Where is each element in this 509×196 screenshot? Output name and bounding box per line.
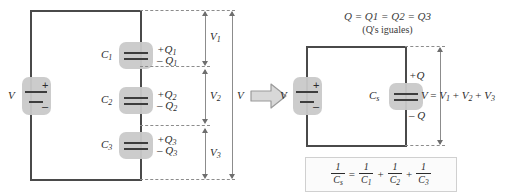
capacitor-cs-bottom-plate [394,99,418,101]
formula-lhs-fraction: 1 Cs [331,162,345,187]
capacitor-c2-top-plate [124,97,148,99]
formula-plus-sign-1: + [377,169,383,180]
dimension-v3-label: V3 [210,147,221,160]
capacitor-c2-subscript: 2 [108,98,112,107]
right-dimension-v-arrow-top [437,47,443,52]
series-capacitance-formula-box: 1 Cs = 1 C1 + 1 C2 + 1 C3 [305,157,457,192]
capacitor-cs-negative-charge: – Q [409,110,425,122]
equal-charges-caption: (Q's iguales) [305,24,470,37]
dimension-v1-arrow-bottom [202,61,208,66]
left-source-negative-plate [29,101,43,103]
right-source-minus-sign: – [313,101,319,112]
left-source-positive-plate [25,91,47,93]
right-source-label: V [280,90,287,102]
left-source-label: V [8,90,15,102]
formula-term1-fraction: 1 C1 [359,162,373,187]
capacitor-c3-top-plate [124,142,148,144]
dimension-v3-line [205,129,206,177]
dimension-v1-line [205,12,206,64]
dimension-v-total-arrow-top [229,11,235,16]
dimension-v2-line [205,70,206,122]
capacitor-cs-highlight [389,83,423,110]
formula-term3-fraction: 1 C3 [416,162,430,187]
formula-term2-fraction: 1 C2 [388,162,402,187]
capacitor-c3-subscript: 3 [108,143,112,152]
right-dimension-v-arrow-bottom [437,140,443,145]
capacitor-c1-label: C1 [101,49,112,62]
left-circuit-top-wire [30,10,142,12]
leader-line-top [140,10,235,11]
leader-line-c2-c3 [140,125,210,126]
leader-line-c1-c2 [140,66,210,67]
dimension-v2-arrow-top [202,69,208,74]
right-source-plus-sign: + [313,80,319,91]
right-circuit-bottom-wire [306,145,407,147]
capacitor-c3-negative-charge: – Q3 [157,145,177,158]
capacitor-c2-negative-charge: – Q2 [157,100,177,113]
capacitor-c2-highlight [119,87,153,114]
left-source-plus-sign: + [42,80,48,91]
voltage-sum-equation: V = V1 + V2 + V3 [421,90,495,103]
capacitor-cs-subscript: s [376,94,379,103]
capacitor-c1-bottom-plate [124,58,148,60]
dimension-v3-arrow-bottom [202,174,208,179]
capacitors-in-series-figure: + – V C1 +Q1 – Q1 C2 +Q2 – Q2 [0,0,509,196]
capacitor-c1-top-plate [124,52,148,54]
dimension-v2-arrow-bottom [202,119,208,124]
formula-equals-sign: = [349,169,355,180]
capacitor-c2-bottom-plate [124,103,148,105]
dimension-v1-label: V1 [210,31,221,44]
dimension-v2-label: V2 [210,90,221,103]
leader-line-bottom [140,179,235,180]
capacitor-c1-highlight [119,42,153,69]
right-circuit-top-wire [306,46,407,48]
right-source-positive-plate [296,91,318,93]
left-circuit-bottom-wire [30,179,142,181]
dimension-v-total-label: V [237,90,244,102]
equal-charges-note: Q = Q1 = Q2 = Q3 (Q's iguales) [305,10,470,36]
capacitor-c2-label: C2 [101,94,112,107]
series-capacitance-formula: 1 Cs = 1 C1 + 1 C2 + 1 C3 [329,162,433,187]
capacitor-cs-label: Cs [369,90,379,103]
dimension-v1-arrow-top [202,11,208,16]
formula-plus-sign-2: + [406,169,412,180]
capacitor-c3-highlight [119,132,153,159]
capacitor-c1-subscript: 1 [108,53,112,62]
right-leader-line-bottom [405,145,445,146]
dimension-v3-arrow-top [202,128,208,133]
dimension-v-total-arrow-bottom [229,174,235,179]
capacitor-cs-positive-charge: +Q [409,70,424,82]
equal-charges-equation: Q = Q1 = Q2 = Q3 [305,10,470,24]
capacitor-c3-label: C3 [101,139,112,152]
right-source-negative-plate [300,101,314,103]
left-source-minus-sign: – [42,101,48,112]
capacitor-cs-top-plate [394,93,418,95]
dimension-v-total-line [232,12,233,178]
capacitor-c3-bottom-plate [124,148,148,150]
